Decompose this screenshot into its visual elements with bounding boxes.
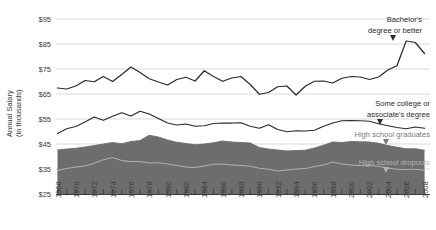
x-axis-tick-label: 1988 <box>237 181 246 198</box>
x-axis-tick-label: 2008 <box>421 181 430 198</box>
x-axis-tick-label: 1996 <box>310 181 319 198</box>
x-axis-tick-label: 2000 <box>347 181 356 198</box>
x-axis-tick-label: 1968 <box>54 181 63 198</box>
chart-canvas: $95$85$75$65$55$45$35$25 Annual Salary (… <box>0 0 436 230</box>
x-axis-tick-label: 1982 <box>182 181 191 198</box>
y-axis-tick-label: $75 <box>38 65 51 74</box>
salary-by-education-chart: $95$85$75$65$55$45$35$25 Annual Salary (… <box>0 0 436 230</box>
y-axis-tick-label: $65 <box>38 90 51 99</box>
y-axis-title-line2: (in thousands) <box>14 89 23 137</box>
annotation-some-college-line1: Some college or <box>375 99 430 108</box>
x-axis-tick-label: 1974 <box>109 181 118 198</box>
x-axis-tick-label: 1992 <box>274 181 283 198</box>
annotation-some-college-line2: associate's degree <box>367 110 430 119</box>
x-axis-tick-label: 1976 <box>127 181 136 198</box>
x-axis-tick-label: 1986 <box>219 181 228 198</box>
y-axis-title-line1: Annual Salary <box>5 90 14 137</box>
x-axis-tick-label: 2004 <box>384 181 393 198</box>
x-axis-tick-label: 1998 <box>329 181 338 198</box>
x-axis-tick-label: 1970 <box>72 181 81 198</box>
x-axis-tick-label: 1978 <box>145 181 154 198</box>
x-axis-tick-label: 1990 <box>255 181 264 198</box>
x-axis-tick-label: 1980 <box>164 181 173 198</box>
y-axis-tick-label: $85 <box>38 40 51 49</box>
y-axis-tick-label: $95 <box>38 15 51 24</box>
x-axis-tick-label: 1994 <box>292 181 301 198</box>
y-axis-tick-label: $35 <box>38 165 51 174</box>
y-axis-title: Annual Salary (in thousands) <box>5 89 23 137</box>
x-axis-tick-label: 2006 <box>402 181 411 198</box>
x-axis-tick-label: 2002 <box>365 181 374 198</box>
x-axis-tick-label: 1984 <box>200 181 209 198</box>
y-axis-tick-label: $45 <box>38 140 51 149</box>
y-axis-tick-label: $55 <box>38 115 51 124</box>
x-axis-tick-label: 1972 <box>90 181 99 198</box>
annotation-hs-graduates-label: High school graduates <box>354 130 430 139</box>
annotation-bachelors-line2: degree or better <box>368 26 423 35</box>
annotation-hs-dropouts-label: High school dropouts <box>359 158 431 167</box>
annotation-bachelors-line1: Bachelor's <box>387 15 422 24</box>
x-axis-tick-labels: 1968197019721974197619781980198219841986… <box>54 181 430 198</box>
y-axis-tick-label: $25 <box>38 190 51 199</box>
